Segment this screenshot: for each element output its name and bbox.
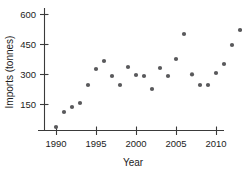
data-point	[190, 72, 194, 76]
data-point	[86, 83, 90, 87]
y-tick-label: 300	[20, 69, 36, 80]
data-point	[166, 74, 170, 78]
data-point	[54, 125, 58, 129]
data-point	[70, 105, 74, 109]
data-point	[182, 32, 186, 36]
data-point	[222, 62, 226, 66]
x-tick-label: 1995	[85, 138, 106, 149]
chart-canvas: 150300450600 Imports (tonnes) 1990199520…	[0, 0, 242, 172]
data-point	[198, 83, 202, 87]
y-tick-label: 600	[20, 9, 36, 20]
scatter-chart: 150300450600 Imports (tonnes) 1990199520…	[0, 0, 242, 172]
data-point	[78, 101, 82, 105]
data-point	[126, 65, 130, 69]
data-point	[142, 74, 146, 78]
y-axis-title: Imports (tonnes)	[4, 36, 15, 109]
data-point	[214, 71, 218, 75]
x-tick-label: 2005	[165, 138, 186, 149]
data-point	[110, 74, 114, 78]
data-point	[134, 73, 138, 77]
y-tick-label: 150	[20, 99, 36, 110]
data-point	[150, 87, 154, 91]
data-point	[238, 28, 242, 32]
data-point	[102, 59, 106, 63]
y-tick-label: 450	[20, 39, 36, 50]
data-point	[206, 83, 210, 87]
data-point	[118, 83, 122, 87]
x-tick-label: 2000	[125, 138, 146, 149]
data-point	[158, 66, 162, 70]
x-axis-title: Year	[123, 157, 144, 168]
x-tick-label: 1990	[45, 138, 66, 149]
data-point	[230, 43, 234, 47]
x-tick-label: 2010	[205, 138, 226, 149]
data-point	[94, 67, 98, 71]
data-point	[174, 57, 178, 61]
data-point	[62, 110, 66, 114]
